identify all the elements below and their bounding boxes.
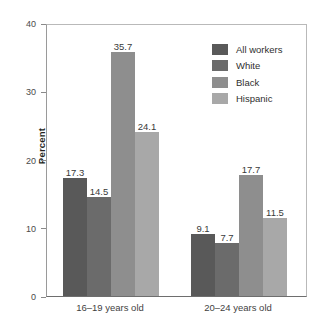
bar bbox=[135, 132, 159, 296]
bar bbox=[87, 197, 111, 296]
y-axis-tick-label: 30 bbox=[26, 86, 36, 98]
bar-value-label: 35.7 bbox=[105, 41, 141, 52]
y-axis-tick: 10 bbox=[0, 223, 46, 235]
y-axis-tick: 40 bbox=[0, 18, 46, 30]
legend-item: White bbox=[212, 58, 282, 75]
y-axis-tick-label: 40 bbox=[26, 18, 36, 30]
legend-item: Hispanic bbox=[212, 91, 282, 108]
y-axis-tick-label: 10 bbox=[26, 223, 36, 235]
bar-chart: Percent 010203040 17.314.535.724.19.17.7… bbox=[0, 0, 324, 326]
x-axis-group-label: 16–19 years old bbox=[50, 302, 170, 313]
bar-value-label: 17.7 bbox=[233, 164, 269, 175]
legend-swatch-icon bbox=[212, 60, 228, 71]
chart-legend: All workersWhiteBlackHispanic bbox=[212, 41, 282, 107]
legend-item-label: Hispanic bbox=[236, 93, 272, 104]
legend-item-label: All workers bbox=[236, 44, 282, 55]
x-axis-group-label: 20–24 years old bbox=[178, 302, 298, 313]
bar-value-label: 11.5 bbox=[257, 207, 293, 218]
legend-item-label: Black bbox=[236, 77, 259, 88]
legend-swatch-icon bbox=[212, 77, 228, 88]
legend-item-label: White bbox=[236, 60, 260, 71]
y-axis-tick-label: 0 bbox=[31, 291, 36, 303]
bar-value-label: 17.3 bbox=[57, 167, 93, 178]
bar bbox=[215, 243, 239, 296]
bar bbox=[263, 218, 287, 296]
bar bbox=[111, 52, 135, 296]
legend-item: Black bbox=[212, 74, 282, 91]
bar bbox=[239, 175, 263, 296]
legend-swatch-icon bbox=[212, 44, 228, 55]
y-axis-tick: 30 bbox=[0, 86, 46, 98]
y-axis-tick-label: 20 bbox=[26, 155, 36, 167]
bar-value-label: 24.1 bbox=[129, 121, 165, 132]
legend-swatch-icon bbox=[212, 93, 228, 104]
legend-item: All workers bbox=[212, 41, 282, 58]
y-axis-tick: 0 bbox=[0, 291, 46, 303]
y-axis-tick: 20 bbox=[0, 155, 46, 167]
